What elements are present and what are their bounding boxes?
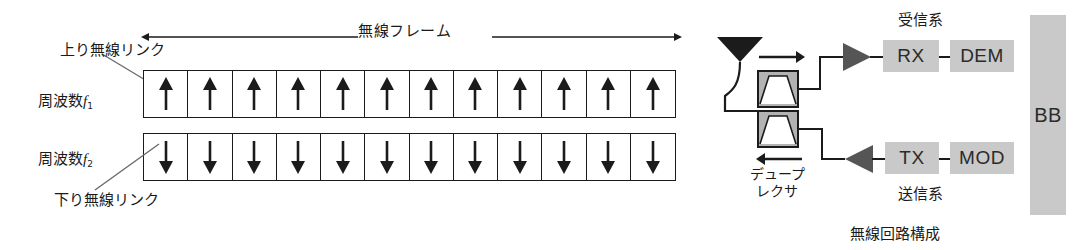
timeslot-cell <box>542 134 586 180</box>
rx-wire-v <box>819 56 821 90</box>
frequency-f2-label: 周波数f2 <box>38 147 93 168</box>
duplexer-tx-filter <box>757 110 799 148</box>
downlink-arrow-icon <box>290 140 306 174</box>
timeslot-cell <box>454 134 498 180</box>
timeslot-cell <box>233 71 277 117</box>
tx-wire-h1 <box>799 128 823 130</box>
rx-amp-output-wire <box>870 56 884 58</box>
uplink-arrow-icon <box>290 77 306 111</box>
timeslot-cell <box>233 134 277 180</box>
uplink-arrow-icon <box>600 77 616 111</box>
tdd-frame-panel: 無線フレーム 上り無線リンク 周波数f1 周波数f2 下り無線リンク <box>0 0 700 250</box>
downlink-arrow-icon <box>246 140 262 174</box>
rx-wire-h1 <box>799 88 821 90</box>
tx-wire-v <box>821 128 823 160</box>
uplink-arrow-icon <box>158 77 174 111</box>
receive-flow-arrow <box>758 50 806 64</box>
uplink-arrow-icon <box>202 77 218 111</box>
downlink-arrow-icon <box>467 140 483 174</box>
uplink-arrow-icon <box>512 77 528 111</box>
downlink-label: 下り無線リンク <box>54 188 159 209</box>
timeslot-cell <box>365 134 409 180</box>
tx-amp-input-wire <box>872 158 886 160</box>
timeslot-cell <box>587 134 631 180</box>
rx-section-label: 受信系 <box>898 8 943 29</box>
timeslot-cell <box>365 71 409 117</box>
timeslot-cell <box>410 134 454 180</box>
duplexer-rx-filter <box>757 70 799 108</box>
uplink-arrow-icon <box>246 77 262 111</box>
timeslot-cell <box>498 134 542 180</box>
downlink-arrow-icon <box>645 140 661 174</box>
figure-root: 無線フレーム 上り無線リンク 周波数f1 周波数f2 下り無線リンク <box>0 0 1078 250</box>
timeslot-cell <box>542 71 586 117</box>
tx-amplifier-icon <box>843 143 875 175</box>
uplink-arrow-icon <box>423 77 439 111</box>
downlink-arrow-icon <box>335 140 351 174</box>
timeslot-cell <box>188 134 232 180</box>
uplink-arrow-icon <box>645 77 661 111</box>
uplink-arrow-icon <box>556 77 572 111</box>
radio-circuit-caption: 無線回路構成 <box>850 222 940 243</box>
radio-circuit-panel: デュープ レクサ RX DEM TX MOD BB 受信系 <box>700 0 1078 250</box>
timeslot-cell <box>498 71 542 117</box>
bb-block: BB <box>1030 15 1066 215</box>
timeslot-cell <box>631 134 675 180</box>
downlink-arrow-icon <box>202 140 218 174</box>
downlink-slot-row <box>143 133 676 181</box>
timeslot-cell <box>454 71 498 117</box>
uplink-slot-row <box>143 70 676 118</box>
tx-block: TX <box>885 142 939 174</box>
rx-amplifier-icon <box>841 41 873 73</box>
radio-frame-label: 無線フレーム <box>358 19 451 40</box>
frequency-f2-text: 周波数 <box>38 150 83 168</box>
timeslot-cell <box>587 71 631 117</box>
timeslot-cell <box>631 71 675 117</box>
frequency-f1-label: 周波数f1 <box>38 89 93 110</box>
downlink-arrow-icon <box>600 140 616 174</box>
downlink-arrow-icon <box>556 140 572 174</box>
rx-block: RX <box>883 40 939 72</box>
duplexer-label-line2: レクサ <box>722 183 832 200</box>
uplink-label: 上り無線リンク <box>60 38 165 59</box>
uplink-arrow-icon <box>379 77 395 111</box>
timeslot-cell <box>277 71 321 117</box>
downlink-arrow-icon <box>379 140 395 174</box>
uplink-arrow-icon <box>335 77 351 111</box>
rx-wire-h2 <box>819 56 843 58</box>
duplexer-label-line1: デュープ <box>722 166 832 183</box>
transmit-flow-arrow <box>755 152 803 166</box>
dem-block: DEM <box>950 40 1014 72</box>
timeslot-cell <box>321 134 365 180</box>
antenna-feed-wire <box>725 110 761 112</box>
tx-wire-h2 <box>821 158 845 160</box>
timeslot-cell <box>188 71 232 117</box>
timeslot-cell <box>277 134 321 180</box>
downlink-arrow-icon <box>423 140 439 174</box>
mod-block: MOD <box>950 142 1014 174</box>
timeslot-cell <box>144 71 188 117</box>
timeslot-cell <box>321 71 365 117</box>
tx-section-label: 送信系 <box>898 182 943 203</box>
downlink-arrow-icon <box>512 140 528 174</box>
frequency-f1-subscript: 1 <box>87 101 93 111</box>
timeslot-cell <box>410 71 454 117</box>
duplexer-label: デュープ レクサ <box>722 166 832 200</box>
frequency-f1-text: 周波数 <box>38 92 83 110</box>
uplink-arrow-icon <box>467 77 483 111</box>
